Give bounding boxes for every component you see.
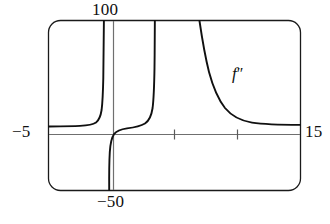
curve-label: f″ — [232, 64, 243, 84]
x-min-label: −5 — [12, 122, 31, 142]
x-max-label: 15 — [305, 122, 322, 142]
y-max-label: 100 — [92, 0, 118, 20]
y-min-label: −50 — [97, 192, 124, 212]
curve-label-primes: ″ — [237, 65, 243, 82]
graph-figure — [0, 0, 330, 224]
plot-frame — [49, 21, 301, 191]
